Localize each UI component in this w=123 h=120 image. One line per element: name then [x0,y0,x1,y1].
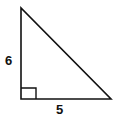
triangle [21,8,111,99]
right-angle-marker [21,88,36,99]
horizontal-leg-label: 5 [56,103,63,116]
vertical-leg-label: 6 [5,54,12,67]
